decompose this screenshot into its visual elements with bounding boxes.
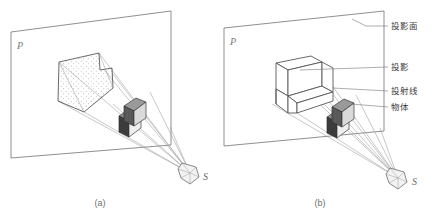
plane-label-b: P: [229, 36, 236, 47]
source-label-b: S: [412, 176, 417, 187]
caption-a: (a): [95, 198, 106, 208]
light-source-a: [178, 163, 199, 184]
projection-figure: P S (a): [0, 0, 431, 220]
callout-label-object: 物体: [391, 102, 409, 112]
light-source-b: [386, 168, 407, 189]
panel-a: P S (a): [11, 11, 208, 208]
callout-label-projection: 投影: [391, 62, 409, 72]
panel-b: 投影面 投影 投射线 物体 P S (b): [224, 11, 418, 208]
caption-b: (b): [315, 198, 326, 208]
callout-label-projection-rays: 投射线: [391, 86, 418, 96]
source-label-a: S: [203, 171, 208, 182]
callout-label-projection-plane: 投影面: [391, 21, 418, 31]
plane-label-a: P: [16, 40, 23, 51]
